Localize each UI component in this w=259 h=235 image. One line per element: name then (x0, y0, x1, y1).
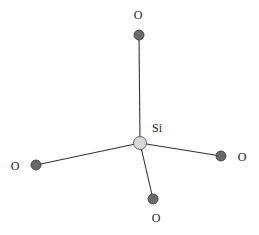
atom-o-top (134, 30, 144, 40)
bond-o-top (139, 35, 140, 143)
label-o-bottom: O (152, 212, 161, 224)
label-o-top: O (134, 9, 143, 21)
bond-o-right (140, 143, 221, 156)
label-o-left: O (11, 160, 20, 172)
label-o-right: O (238, 151, 247, 163)
label-si: Si (152, 122, 162, 134)
molecule-diagram (0, 0, 259, 235)
atom-o-left (31, 160, 41, 170)
atom-o-right (216, 151, 226, 161)
bond-o-bottom (140, 143, 153, 199)
atom-si (134, 137, 147, 150)
atom-o-bottom (148, 194, 158, 204)
bond-o-left (36, 143, 140, 165)
